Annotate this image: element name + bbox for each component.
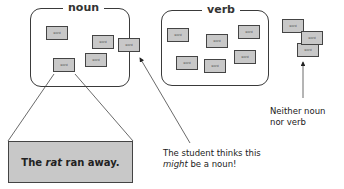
neither-caption: Neither noun nor verb: [270, 106, 325, 128]
verb-label: verb: [202, 4, 240, 16]
noun-group: noun: [30, 8, 130, 87]
word-card: word: [206, 34, 228, 48]
word-card: word: [301, 31, 323, 45]
word-card: word: [92, 35, 114, 49]
verb-group: verb: [161, 10, 269, 86]
word-card: word: [234, 50, 256, 64]
student-caption: The student thinks this might be a noun!: [163, 148, 261, 170]
word-card: word: [297, 43, 319, 57]
word-card: word: [85, 53, 107, 67]
noun-label: noun: [63, 2, 104, 14]
word-card: word: [46, 26, 68, 40]
word-card: word: [238, 25, 260, 39]
example-sentence: The rat ran away.: [8, 141, 133, 183]
word-card: word: [176, 56, 198, 70]
word-card-doubtful: word: [118, 38, 140, 52]
word-card: word: [204, 59, 226, 73]
word-card: word: [167, 28, 189, 42]
word-card-highlighted: word: [53, 58, 75, 72]
